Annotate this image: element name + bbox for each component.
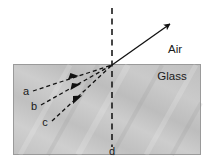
diagram-canvas: a b c d Air Glass	[0, 0, 211, 165]
normal-label-d: d	[109, 145, 115, 157]
ray-label-b: b	[31, 100, 37, 112]
glass-label: Glass	[157, 70, 187, 82]
air-label: Air	[168, 43, 182, 55]
refraction-diagram: a b c d Air Glass	[0, 0, 211, 165]
ray-label-c: c	[42, 116, 48, 128]
ray-label-a: a	[23, 85, 30, 97]
